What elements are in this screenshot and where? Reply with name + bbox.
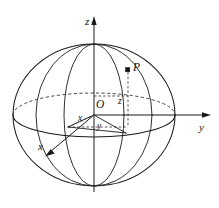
height-z-label: z: [118, 97, 122, 107]
x-axis-arrowhead: [45, 149, 55, 156]
point-p-marker: [126, 68, 130, 72]
origin-label: O: [96, 99, 104, 111]
point-p-label: P: [133, 62, 140, 74]
y-axis-arrowhead: [202, 112, 211, 117]
sphere-diagram-svg: [0, 0, 219, 208]
x-axis-line: [50, 115, 94, 152]
projection-y-label: y: [97, 122, 101, 132]
y-axis-label: y: [199, 122, 204, 133]
z-axis-label: z: [85, 16, 89, 27]
projection-x-label: x: [78, 114, 82, 124]
spherical-coordinates-figure: z y x O P z x y: [0, 0, 219, 208]
z-axis-arrowhead: [91, 16, 96, 25]
x-axis-label: x: [38, 141, 43, 152]
